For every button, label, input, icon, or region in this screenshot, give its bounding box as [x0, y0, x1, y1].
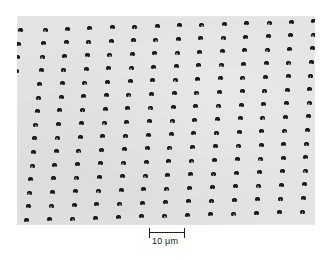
lattice-dot	[187, 186, 192, 190]
lattice-dot	[194, 91, 199, 95]
lattice-dot	[24, 218, 29, 222]
lattice-dot	[309, 60, 314, 64]
lattice-dot	[104, 93, 109, 97]
lattice-dot	[84, 67, 89, 71]
lattice-dot	[219, 63, 224, 67]
lattice-dot	[43, 28, 48, 32]
lattice-dot	[64, 40, 69, 44]
lattice-dot	[311, 19, 315, 23]
lattice-dot	[260, 116, 265, 120]
lattice-dot	[287, 47, 292, 51]
lattice-dot-partial	[17, 55, 20, 59]
lattice-dot	[123, 134, 128, 138]
lattice-dot	[52, 163, 57, 167]
lattice-dot	[145, 146, 150, 150]
lattice-dot	[75, 162, 80, 166]
lattice-dot	[256, 184, 261, 188]
lattice-dot	[122, 147, 127, 151]
lattice-dot	[259, 129, 264, 133]
lattice-dot	[124, 120, 129, 124]
lattice-dot	[26, 204, 31, 208]
lattice-dot	[163, 200, 168, 204]
lattice-dot	[39, 68, 44, 72]
lattice-dot	[286, 61, 291, 65]
lattice-dot	[221, 36, 226, 40]
lattice-dot	[197, 50, 202, 54]
lattice-dot	[216, 104, 221, 108]
lattice-dot	[306, 114, 311, 118]
lattice-dot	[131, 38, 136, 42]
lattice-dot	[78, 135, 83, 139]
scale-bar-right-tick	[184, 228, 185, 238]
lattice-dot	[105, 80, 110, 84]
lattice-dot	[164, 187, 169, 191]
lattice-dot	[126, 93, 131, 97]
lattice-dot	[109, 39, 114, 43]
lattice-dot	[257, 170, 262, 174]
lattice-dot	[55, 136, 60, 140]
lattice-dot	[222, 22, 227, 26]
lattice-dot	[307, 101, 312, 105]
lattice-dot	[170, 119, 175, 123]
lattice-dot	[255, 197, 260, 201]
lattice-dot	[41, 41, 46, 45]
lattice-dot	[193, 104, 198, 108]
lattice-dot	[280, 169, 285, 173]
lattice-dot-partial	[17, 42, 21, 46]
lattice-dot	[239, 103, 244, 107]
lattice-dot	[237, 130, 242, 134]
lattice-dot	[258, 157, 263, 161]
lattice-dot	[51, 176, 56, 180]
lattice-dot	[243, 35, 248, 39]
lattice-dot	[85, 53, 90, 57]
lattice-dot	[61, 68, 66, 72]
lattice-dot	[165, 173, 170, 177]
lattice-dot	[110, 25, 115, 29]
lattice-dot	[147, 119, 152, 123]
lattice-dot	[33, 123, 38, 127]
scale-bar-line	[149, 232, 185, 233]
lattice-dot	[310, 46, 315, 50]
lattice-dot	[277, 210, 282, 214]
lattice-dot	[166, 159, 171, 163]
lattice-dot	[175, 51, 180, 55]
lattice-dot	[209, 199, 214, 203]
lattice-dot	[185, 213, 190, 217]
lattice-dot	[305, 128, 310, 132]
lattice-dot	[59, 95, 64, 99]
lattice-dot	[140, 201, 145, 205]
lattice-dot	[129, 66, 134, 70]
lattice-dot	[307, 87, 312, 91]
lattice-dot	[254, 211, 259, 215]
lattice-dot	[171, 105, 176, 109]
lattice-dot	[74, 176, 79, 180]
lattice-dot	[192, 118, 197, 122]
lattice-dot	[240, 89, 245, 93]
lattice-dot	[211, 172, 216, 176]
lattice-dot	[188, 172, 193, 176]
lattice-dot	[302, 182, 307, 186]
lattice-dot	[98, 161, 103, 165]
lattice-dot	[31, 150, 36, 154]
lattice-dot	[220, 49, 225, 53]
lattice-dot	[231, 212, 236, 216]
lattice-dot	[191, 131, 196, 135]
lattice-dot	[150, 78, 155, 82]
lattice-dot	[169, 132, 174, 136]
lattice-dot	[189, 159, 194, 163]
lattice-dot	[167, 146, 172, 150]
lattice-dot	[155, 24, 160, 28]
micrograph-image	[17, 16, 315, 225]
lattice-dot	[244, 21, 249, 25]
lattice-dot	[176, 37, 181, 41]
lattice-dot	[30, 164, 35, 168]
lattice-dot	[217, 90, 222, 94]
figure: 10 μm	[0, 0, 333, 260]
lattice-dot	[303, 155, 308, 159]
lattice-dot	[172, 91, 177, 95]
lattice-dot	[57, 108, 62, 112]
lattice-dot-partial	[18, 28, 23, 32]
lattice-dot	[119, 188, 124, 192]
lattice-dot	[240, 76, 245, 80]
lattice-dot	[241, 62, 246, 66]
